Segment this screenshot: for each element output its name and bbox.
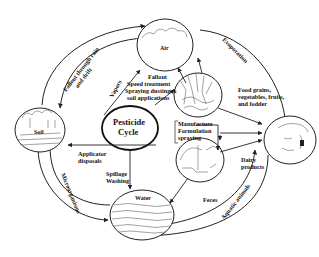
node-dairy bbox=[176, 138, 224, 182]
node-soil: Soil bbox=[15, 108, 65, 152]
node-pesticide-cycle: Pesticide Cycle bbox=[102, 106, 158, 150]
center-label-line2: Cycle bbox=[118, 127, 139, 137]
node-crops bbox=[174, 73, 222, 117]
node-air: Air bbox=[137, 19, 193, 71]
spraying-label: Spraying dusting & bbox=[125, 87, 177, 94]
dairy-label-line1: Dairy bbox=[241, 156, 257, 163]
node-water: Water bbox=[110, 190, 174, 240]
food-label-line2: vegetables, fruits, bbox=[238, 93, 285, 100]
pesticide-cycle-diagram: Air Soil Water Pesticide Cycle bbox=[0, 0, 319, 257]
spillage-label-line2: Washing bbox=[106, 177, 130, 184]
manufacture-label-line1: Manufacture bbox=[178, 120, 213, 127]
manufacture-label-line3: spraying bbox=[178, 134, 202, 141]
center-label-line1: Pesticide bbox=[113, 117, 145, 127]
evaporation-label: Evaporation bbox=[221, 36, 250, 65]
applicator-label-line1: Applicator bbox=[78, 150, 107, 157]
dairy-label-line2: products bbox=[241, 163, 265, 170]
vapors-label: Vapors bbox=[108, 78, 123, 98]
fallout-label: Fallout bbox=[148, 73, 168, 80]
node-human bbox=[264, 116, 316, 164]
air-label: Air bbox=[160, 45, 169, 51]
aquatic-animals-label: Aquatic animals bbox=[219, 182, 251, 221]
soil-label: Soil bbox=[34, 129, 44, 135]
soil-applications-label: soil applications bbox=[127, 94, 170, 101]
speed-treatment-label: Speed treatment bbox=[127, 80, 171, 87]
manufacture-label-line2: Formulation bbox=[178, 127, 212, 134]
feces-label: Feces bbox=[203, 196, 218, 203]
spillage-label-line1: Spillage bbox=[106, 170, 127, 177]
water-label: Water bbox=[135, 195, 151, 201]
food-label-line3: and fodder bbox=[238, 100, 267, 107]
food-label-line1: Food grains, bbox=[238, 86, 271, 93]
applicator-label-line2: disposals bbox=[78, 157, 102, 164]
